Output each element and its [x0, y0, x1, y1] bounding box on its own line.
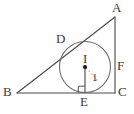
tangent-label-d: D [56, 32, 65, 45]
vertex-label-a: A [112, 1, 121, 14]
figure-canvas [0, 0, 134, 114]
vertex-label-b: B [3, 85, 12, 98]
geometry-figure: A B C D E F I 1 [0, 0, 134, 114]
triangle-side-ab [17, 17, 115, 93]
vertex-label-c: C [118, 85, 127, 98]
tangent-label-f: F [117, 59, 124, 72]
radius-length-label-one: 1 [92, 72, 98, 83]
tangent-label-e: E [80, 95, 88, 108]
center-label-i: I [83, 52, 87, 65]
